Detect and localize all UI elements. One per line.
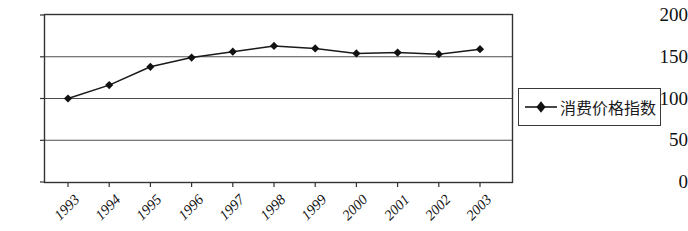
legend-label-cpi: 消费价格指数 [560, 95, 656, 119]
y-axis-tick-label: 0 [648, 172, 688, 191]
cpi-line-chart-figure: 050100150200 199319941995199619971998199… [0, 0, 688, 231]
series-markers-cpi [64, 42, 484, 103]
data-point-marker [146, 63, 154, 71]
diamond-marker-icon [524, 99, 558, 115]
data-point-marker [229, 48, 237, 56]
y-axis-tick-label: 200 [648, 5, 688, 24]
y-axis-tick-label: 50 [648, 130, 688, 149]
gridlines-group [40, 15, 512, 182]
data-point-marker [188, 54, 196, 62]
data-point-marker [105, 81, 113, 89]
chart-legend: 消费价格指数 [518, 88, 661, 126]
data-point-marker [270, 42, 278, 50]
data-point-marker [394, 49, 402, 57]
y-axis-tick-label: 150 [648, 47, 688, 66]
data-point-marker [476, 45, 484, 53]
series-line-cpi [68, 46, 480, 99]
data-point-marker [311, 44, 319, 52]
data-point-marker [64, 94, 72, 102]
